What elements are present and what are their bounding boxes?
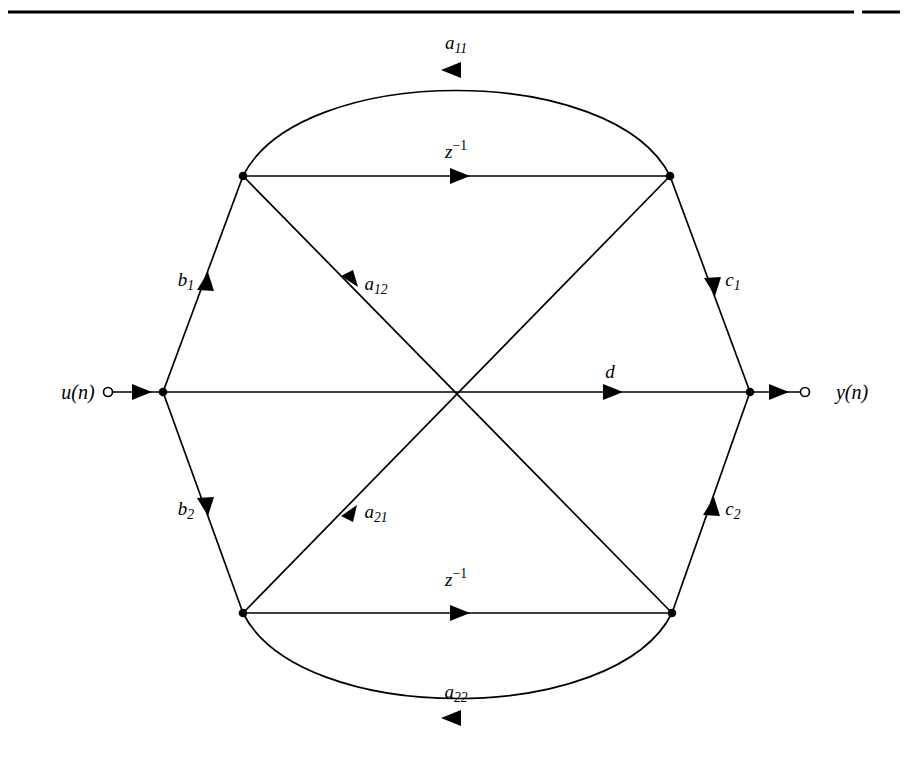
node-output-sum <box>746 388 755 397</box>
output-signal-label: y(n) <box>836 382 868 402</box>
label-a22: a22 <box>444 682 467 705</box>
label-z-top: z−1 <box>445 139 467 160</box>
input-terminal <box>104 384 164 400</box>
signal-flow-graph <box>0 0 908 763</box>
node-lower-right <box>668 609 677 618</box>
arrowhead-output <box>769 384 789 400</box>
arrowhead-a22 <box>441 710 461 726</box>
arrowhead-a21 <box>341 505 357 522</box>
node-input-sum <box>159 388 168 397</box>
arrowhead-input <box>132 384 152 400</box>
label-b2: b2 <box>178 499 194 522</box>
label-a12: a12 <box>364 274 387 297</box>
arrowhead-z-top <box>450 168 470 184</box>
edge-z-bottom <box>243 605 672 621</box>
label-c2: c2 <box>725 499 740 522</box>
arrowhead-z-bottom <box>450 605 470 621</box>
label-c1: c1 <box>725 270 740 293</box>
edge-a22 <box>243 613 672 726</box>
arrowhead-a11 <box>441 62 461 78</box>
figure-canvas: u(n) y(n) a11 z−1 b1 a12 c1 d b2 a21 c2 … <box>0 0 908 763</box>
arrowhead-d <box>603 384 623 400</box>
label-z-bottom: z−1 <box>445 567 467 588</box>
edge-d <box>163 384 750 400</box>
arrowhead-b2 <box>197 497 214 516</box>
input-signal-label: u(n) <box>61 382 94 402</box>
label-a11: a11 <box>445 33 467 56</box>
label-b1: b1 <box>178 270 194 293</box>
node-upper-left <box>239 172 248 181</box>
output-terminal <box>750 384 810 400</box>
label-d: d <box>605 362 615 381</box>
edge-z-top <box>243 168 670 184</box>
edge-b1 <box>163 176 243 392</box>
label-a21: a21 <box>364 502 387 525</box>
node-lower-left <box>239 609 248 618</box>
node-upper-right <box>666 172 675 181</box>
edge-b2 <box>163 392 243 613</box>
